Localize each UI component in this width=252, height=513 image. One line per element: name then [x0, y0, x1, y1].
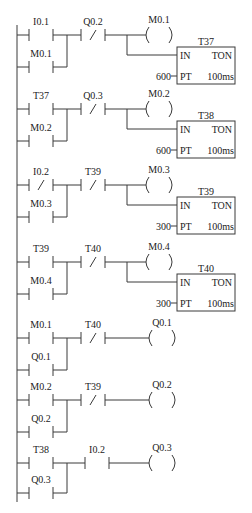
- output-coil: Q0.2: [149, 379, 175, 408]
- coil-left-arc: [146, 177, 149, 193]
- timer-name: T39: [198, 186, 214, 197]
- nc-slash: [38, 180, 44, 190]
- contact-label: Q0.3: [31, 474, 51, 485]
- output-coil: M0.2: [146, 88, 172, 117]
- nc-contact: I0.2: [29, 166, 53, 191]
- nc-slash: [90, 180, 96, 190]
- nc-slash: [90, 104, 96, 114]
- rung-1: I0.1M0.1Q0.2M0.1T37INTONPT100ms600: [17, 14, 235, 84]
- no-contact: T37: [29, 90, 53, 115]
- coil-left-arc: [146, 254, 149, 270]
- timer-name: T38: [198, 110, 214, 121]
- no-contact: Q0.3: [29, 474, 53, 499]
- ladder-diagram: I0.1M0.1Q0.2M0.1T37INTONPT100ms600T37M0.…: [0, 0, 252, 513]
- ton-timer-block: T40INTONPT100ms300: [156, 263, 235, 311]
- coil-left-arc: [146, 27, 149, 43]
- output-coil: M0.1: [146, 14, 172, 43]
- output-coil: M0.3: [146, 164, 172, 193]
- no-contact: M0.1: [29, 48, 53, 73]
- contact-label: T38: [33, 444, 49, 455]
- coil-left-arc: [149, 330, 152, 346]
- output-coil: M0.4: [146, 241, 172, 270]
- nc-contact: T40: [81, 243, 105, 268]
- no-contact: M0.1: [29, 319, 53, 344]
- contact-label: T39: [33, 243, 49, 254]
- contact-label: M0.1: [30, 319, 51, 330]
- timer-preset-value: 300: [156, 298, 171, 309]
- coil-right-arc: [169, 27, 172, 43]
- coil-label: Q0.1: [152, 317, 172, 328]
- timer-in-label: IN: [180, 277, 191, 288]
- coil-right-arc: [172, 330, 175, 346]
- ton-timer-block: T39INTONPT100ms300: [156, 186, 235, 234]
- nc-contact: T40: [81, 319, 105, 344]
- coil-right-arc: [169, 254, 172, 270]
- output-coil: Q0.1: [149, 317, 175, 346]
- contact-label: Q0.1: [31, 351, 51, 362]
- rung-4: T39M0.4T40M0.4T40INTONPT100ms300: [17, 241, 235, 311]
- rung-6: M0.2Q0.2T39Q0.2: [17, 379, 175, 438]
- rung-3: I0.2M0.3T39M0.3T39INTONPT100ms300: [17, 164, 235, 234]
- timer-pt-label: PT: [180, 298, 192, 309]
- nc-slash: [90, 257, 96, 267]
- nc-slash: [90, 333, 96, 343]
- coil-label: Q0.2: [152, 379, 172, 390]
- no-contact: Q0.1: [29, 351, 53, 376]
- coil-label: M0.3: [148, 164, 169, 175]
- timer-type-label: TON: [212, 200, 232, 211]
- timer-in-label: IN: [180, 200, 191, 211]
- no-contact: T39: [29, 243, 53, 268]
- timer-type-label: TON: [212, 124, 232, 135]
- contact-label: Q0.2: [83, 16, 103, 27]
- no-contact: M0.2: [29, 122, 53, 147]
- no-contact: M0.4: [29, 275, 53, 300]
- coil-right-arc: [169, 101, 172, 117]
- contact-label: I0.2: [33, 166, 49, 177]
- no-contact: I0.1: [29, 16, 53, 41]
- timer-preset-value: 600: [156, 145, 171, 156]
- contact-label: Q0.2: [31, 413, 51, 424]
- coil-label: M0.1: [148, 14, 169, 25]
- contact-label: T39: [85, 166, 101, 177]
- timer-name: T40: [198, 263, 214, 274]
- contact-label: M0.3: [30, 198, 51, 209]
- nc-contact: T39: [81, 166, 105, 191]
- timer-preset-value: 600: [156, 71, 171, 82]
- timer-pt-label: PT: [180, 221, 192, 232]
- contact-label: M0.2: [30, 381, 51, 392]
- coil-right-arc: [172, 392, 175, 408]
- contact-label: M0.4: [30, 275, 51, 286]
- output-coil: Q0.3: [149, 442, 175, 471]
- nc-slash: [90, 30, 96, 40]
- no-contact: Q0.2: [29, 413, 53, 438]
- contact-label: T40: [85, 319, 101, 330]
- no-contact: M0.2: [29, 381, 53, 406]
- nc-slash: [90, 395, 96, 405]
- ton-timer-block: T38INTONPT100ms600: [156, 110, 235, 158]
- rung-7: T38Q0.3I0.2Q0.3: [17, 442, 175, 499]
- contact-label: Q0.3: [83, 90, 103, 101]
- contact-label: M0.1: [30, 48, 51, 59]
- timer-base-label: 100ms: [207, 298, 234, 309]
- timer-type-label: TON: [212, 50, 232, 61]
- nc-contact: T39: [81, 381, 105, 406]
- nc-contact: Q0.3: [81, 90, 105, 115]
- coil-label: M0.4: [148, 241, 169, 252]
- contact-label: T37: [33, 90, 49, 101]
- coil-label: Q0.3: [152, 442, 172, 453]
- timer-in-label: IN: [180, 124, 191, 135]
- timer-name: T37: [198, 36, 214, 47]
- rung-5: M0.1Q0.1T40Q0.1: [17, 317, 175, 376]
- timer-base-label: 100ms: [207, 71, 234, 82]
- coil-left-arc: [146, 101, 149, 117]
- contact-label: M0.2: [30, 122, 51, 133]
- timer-pt-label: PT: [180, 145, 192, 156]
- contact-label: T39: [85, 381, 101, 392]
- timer-base-label: 100ms: [207, 145, 234, 156]
- timer-preset-value: 300: [156, 221, 171, 232]
- ton-timer-block: T37INTONPT100ms600: [156, 36, 235, 84]
- no-contact: T38: [29, 444, 53, 469]
- coil-left-arc: [149, 392, 152, 408]
- rung-2: T37M0.2Q0.3M0.2T38INTONPT100ms600: [17, 88, 235, 158]
- nc-contact: Q0.2: [81, 16, 105, 41]
